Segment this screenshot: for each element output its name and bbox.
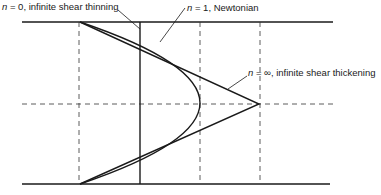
leader-thinning (118, 10, 140, 29)
velocity-profile-diagram: n = 0, infinite shear thinning n = 1, Ne… (0, 0, 381, 195)
label-infinite-shear-thinning: n = 0, infinite shear thinning (2, 1, 118, 12)
leader-thickening (228, 76, 247, 89)
leader-newtonian (160, 8, 185, 42)
label-newtonian: n = 1, Newtonian (187, 2, 259, 13)
label-infinite-shear-thickening: n = ∞, infinite shear thickening (248, 67, 375, 78)
curve-infinite-shear-thickening (80, 22, 259, 184)
